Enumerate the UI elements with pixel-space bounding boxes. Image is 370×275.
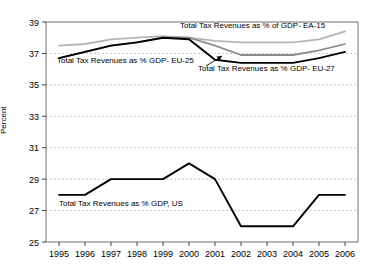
series-annotation-ea15: Total Tax Revenues as % of GDP- EA-15 — [180, 21, 326, 30]
y-axis-ticks: 2527293133353739 — [29, 18, 46, 248]
x-tick-label: 1998 — [127, 249, 147, 259]
x-tick-label: 2002 — [231, 249, 251, 259]
series-line — [59, 31, 345, 45]
y-tick-label: 31 — [29, 143, 39, 153]
line-chart: 2527293133353739 19951996199719981999200… — [0, 0, 370, 275]
series-line — [59, 163, 345, 226]
y-tick-label: 35 — [29, 80, 39, 90]
y-tick-label: 27 — [29, 206, 39, 216]
grid-lines — [46, 53, 358, 210]
y-tick-label: 39 — [29, 18, 39, 28]
x-tick-label: 1995 — [49, 249, 69, 259]
x-tick-label: 1996 — [75, 249, 95, 259]
y-tick-label: 37 — [29, 49, 39, 59]
x-tick-label: 2006 — [335, 249, 355, 259]
series-annotation-eu27: Total Tax Revenues as % GDP- EU-27 — [198, 64, 335, 73]
x-tick-label: 2004 — [283, 249, 303, 259]
x-tick-label: 1999 — [153, 249, 173, 259]
x-axis-ticks: 1995199619971998199920002001200220032004… — [49, 242, 355, 259]
x-tick-label: 2000 — [179, 249, 199, 259]
y-tick-label: 29 — [29, 175, 39, 185]
y-tick-label: 25 — [29, 238, 39, 248]
plot-frame — [46, 22, 358, 242]
x-tick-label: 2005 — [309, 249, 329, 259]
x-tick-label: 2003 — [257, 249, 277, 259]
series-annotation-us: Total Tax Revenues as % GDP, US — [59, 199, 183, 208]
y-tick-label: 33 — [29, 112, 39, 122]
chart-container: Percent 2527293133353739 199519961997199… — [0, 0, 370, 275]
x-tick-label: 1997 — [101, 249, 121, 259]
series-annotation-eu25: Total Tax Revenues as % GDP- EU-25 — [57, 56, 194, 65]
x-tick-label: 2001 — [205, 249, 225, 259]
y-axis-title: Percent — [0, 106, 8, 134]
